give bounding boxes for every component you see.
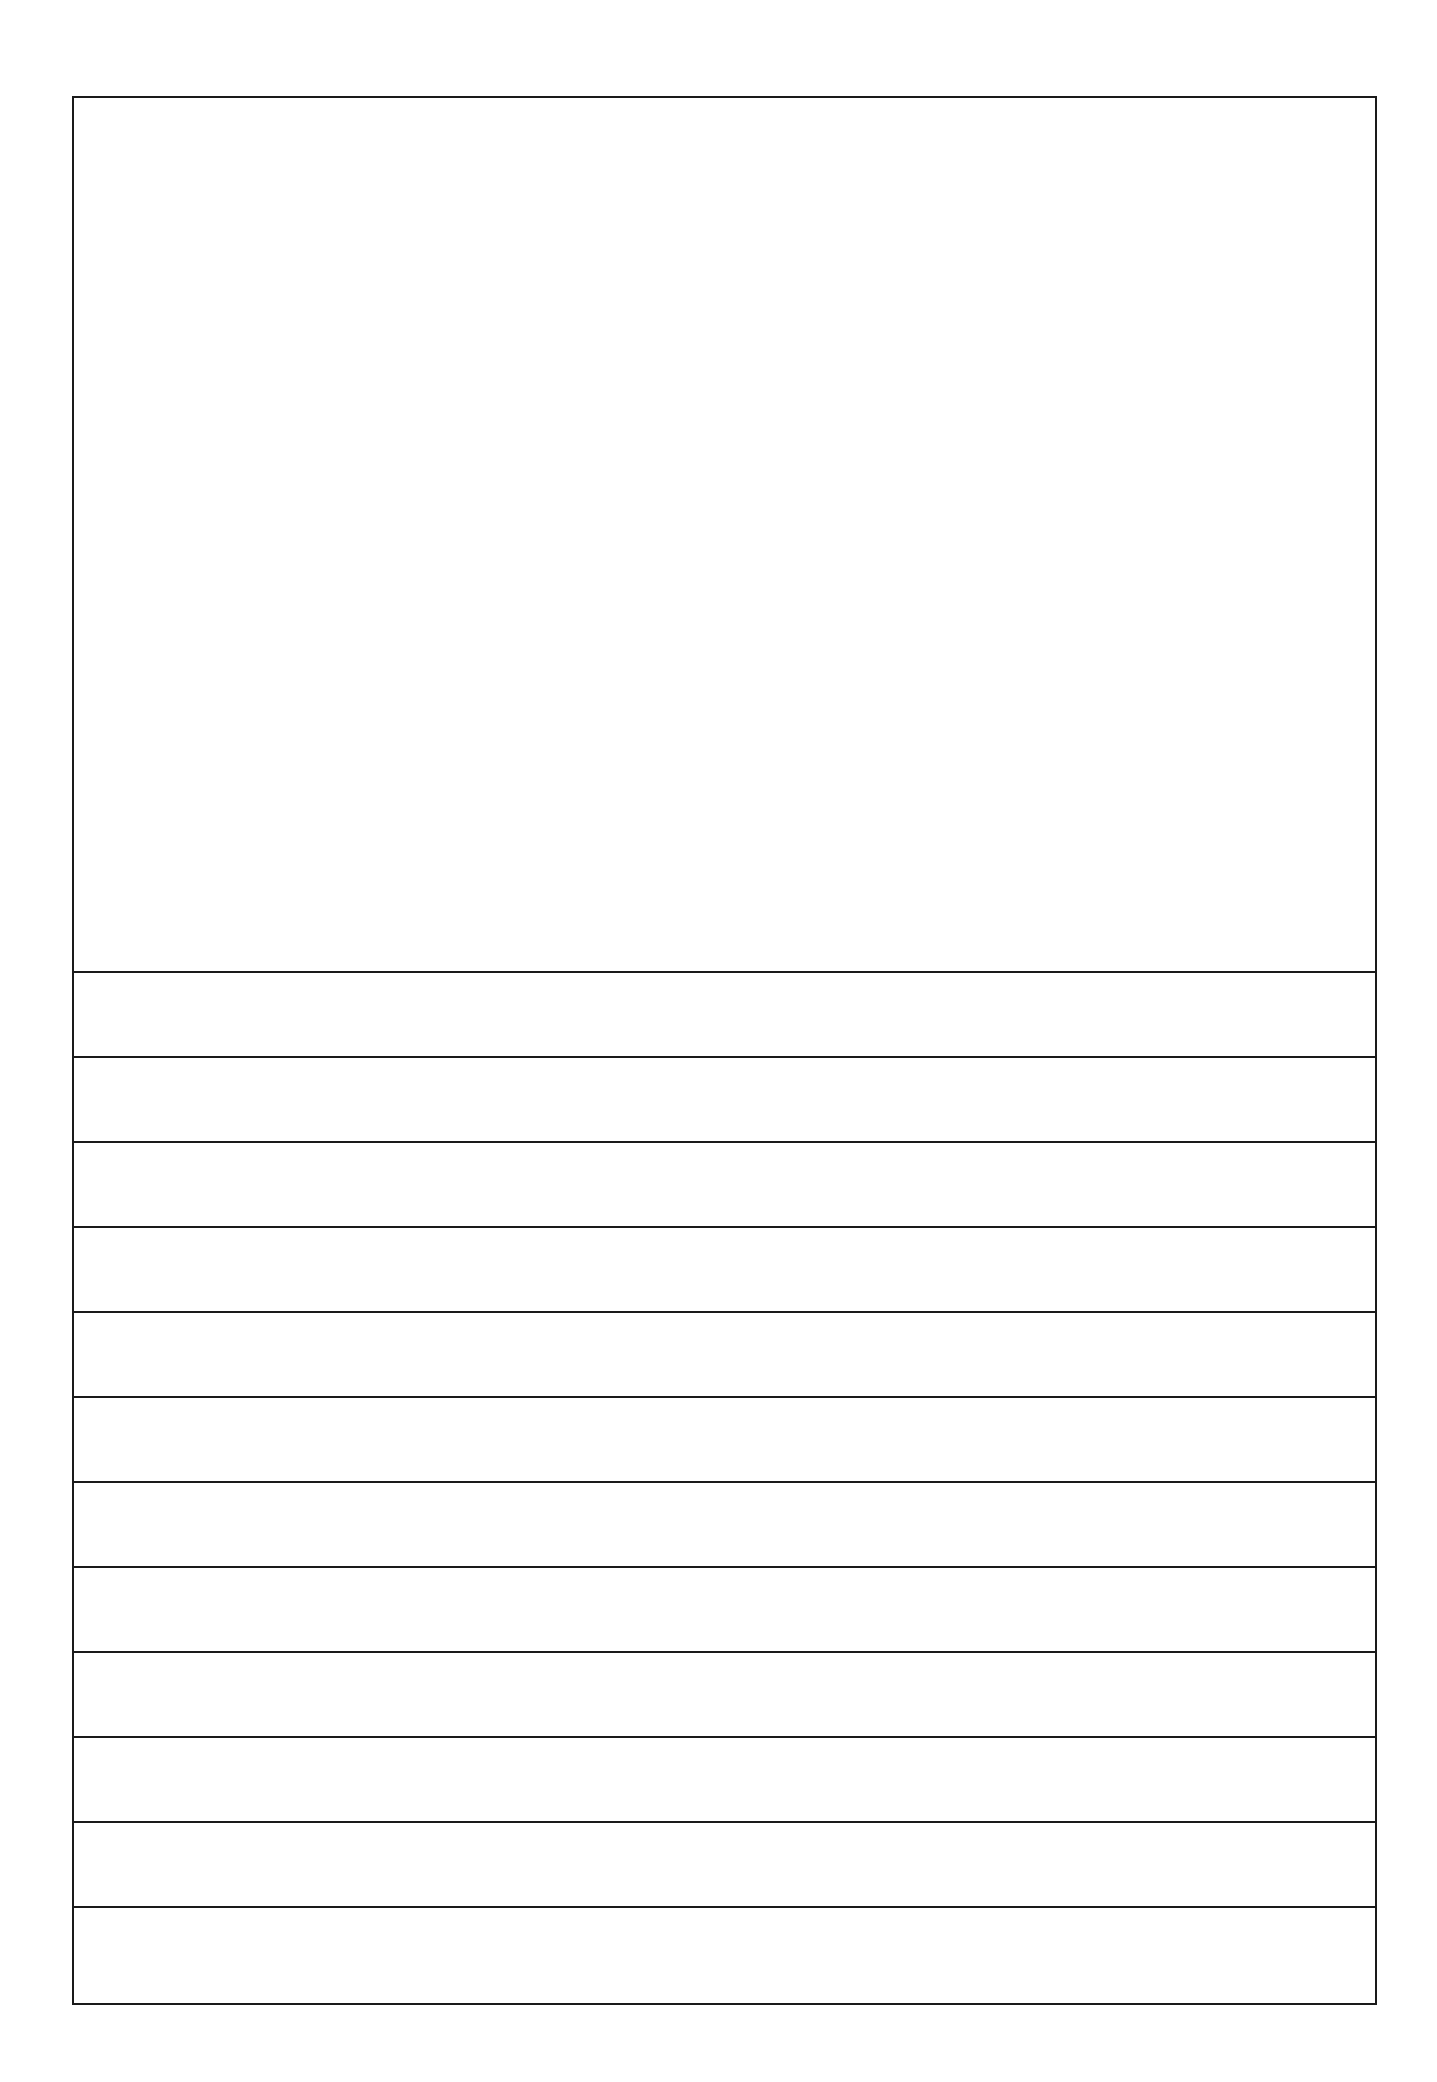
form-outer-box <box>72 96 1377 2005</box>
table-row[interactable] <box>74 1908 1375 2003</box>
table-row[interactable] <box>74 1483 1375 1568</box>
table-row[interactable] <box>74 1228 1375 1313</box>
document-page <box>0 0 1437 2082</box>
table-row[interactable] <box>74 973 1375 1058</box>
table-row[interactable] <box>74 1653 1375 1738</box>
table-row[interactable] <box>74 1823 1375 1908</box>
ruled-rows-area <box>74 973 1375 2003</box>
table-row[interactable] <box>74 1313 1375 1398</box>
table-row[interactable] <box>74 1143 1375 1228</box>
table-row[interactable] <box>74 1398 1375 1483</box>
header-blank-cell[interactable] <box>74 98 1375 973</box>
table-row[interactable] <box>74 1568 1375 1653</box>
table-row[interactable] <box>74 1058 1375 1143</box>
table-row[interactable] <box>74 1738 1375 1823</box>
